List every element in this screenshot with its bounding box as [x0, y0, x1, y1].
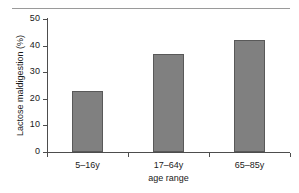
y-axis-tick-label: 10 — [30, 120, 40, 129]
x-axis-line — [47, 152, 290, 153]
y-axis-tick-label: 50 — [30, 14, 40, 23]
y-axis-tick — [43, 72, 47, 73]
x-axis-tick — [128, 153, 129, 157]
y-axis-tick-label: 40 — [30, 41, 40, 50]
y-axis-tick — [43, 99, 47, 100]
x-axis-category-label: 65–85y — [209, 160, 290, 170]
y-axis-tick — [43, 46, 47, 47]
x-axis-title: age range — [47, 173, 290, 183]
bar — [72, 91, 103, 152]
y-axis-tick-label: 30 — [30, 67, 40, 76]
y-axis-title: Lactose maldigestion (%) — [14, 18, 27, 153]
x-axis-tick — [47, 153, 48, 157]
bar — [234, 40, 265, 152]
bar-chart-figure: 50403020100 5–16y17–64y65–85y age range … — [0, 0, 299, 193]
top-divider-rule — [12, 8, 290, 9]
x-axis-tick — [209, 153, 210, 157]
y-axis-tick-label: 20 — [30, 94, 40, 103]
y-axis-tick-label: 0 — [35, 147, 40, 156]
bar — [153, 54, 184, 152]
x-axis-category-label: 17–64y — [128, 160, 209, 170]
x-axis-tick — [290, 153, 291, 157]
y-axis-line — [47, 18, 48, 153]
y-axis-tick — [43, 125, 47, 126]
y-axis-tick — [43, 19, 47, 20]
x-axis-category-label: 5–16y — [47, 160, 128, 170]
